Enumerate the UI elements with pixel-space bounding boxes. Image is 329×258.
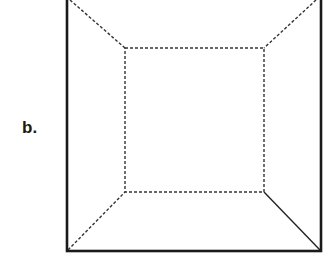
connector-bottom-right [264, 192, 320, 250]
connector-top-left [70, 0, 125, 48]
pyramid-diagram [0, 0, 329, 258]
connector-top-right [264, 0, 316, 48]
connector-bottom-left [68, 192, 125, 250]
inner-square [125, 48, 264, 192]
outer-square [67, 0, 321, 251]
